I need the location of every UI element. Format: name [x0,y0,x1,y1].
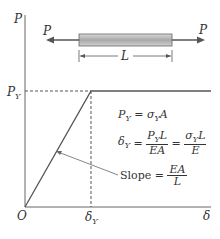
x-axis-label: δ [203,210,210,222]
force-right-label: P [199,24,207,36]
equation-py: PY = σYA [118,109,168,123]
equation-dy: δY = PYLEA = σYLE [118,130,206,156]
force-left-label: P [43,25,51,37]
equation-slope: Slope = EAL [120,164,187,187]
diagram-graphics [0,0,220,239]
bar-rod [79,34,172,46]
dy-tick-label: δY [85,211,98,226]
y-axis-label: P [14,13,22,25]
arrow-right-icon [197,37,205,44]
py-tick-label: PY [7,86,20,101]
load-displacement-diagram: P P P L PY O δY δ PY = σYA δY = PYLEA = … [0,0,220,239]
slope-leader [58,152,118,175]
origin-label: O [17,210,27,222]
length-label: L [121,50,129,62]
